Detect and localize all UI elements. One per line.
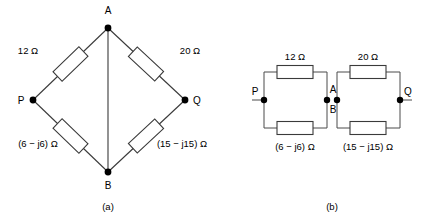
label-b-12ohm: 12 Ω	[285, 51, 305, 62]
resistor-a-20ohm	[128, 47, 163, 81]
resistor-body	[53, 119, 88, 153]
resistor-a-6-j6	[53, 119, 88, 153]
node-label-a-q: Q	[193, 95, 201, 106]
node-dot-b-a	[324, 97, 330, 103]
resistor-a-12ohm	[53, 47, 88, 81]
node-label-a-top: A	[105, 5, 112, 16]
node-label-b-p: P	[252, 86, 259, 97]
node-dot-a-top	[105, 25, 112, 32]
caption-a: (a)	[102, 201, 114, 212]
resistor-b-12ohm	[277, 66, 313, 79]
resistor-body	[128, 47, 163, 81]
diagram-b: 12 Ω (6 − j6) Ω 20 Ω (15 − j15) Ω P A B …	[252, 51, 412, 212]
resistor-b-15-j15	[350, 122, 386, 135]
node-label-a-p: P	[18, 95, 25, 106]
resistor-b-6-j6	[277, 122, 313, 135]
diagram-a-wires	[33, 28, 185, 172]
node-dot-a-bottom	[105, 169, 112, 176]
resistor-body	[53, 47, 88, 81]
node-label-b-a: A	[330, 84, 337, 95]
node-label-b-b: B	[330, 104, 337, 115]
resistor-b-20ohm	[350, 66, 386, 79]
label-b-6-j6: (6 − j6) Ω	[275, 141, 315, 152]
node-label-a-bottom: B	[105, 180, 112, 191]
node-label-b-q: Q	[404, 86, 412, 97]
node-dot-b-b	[334, 97, 340, 103]
label-b-20ohm: 20 Ω	[358, 51, 378, 62]
node-dot-b-q	[397, 97, 403, 103]
circuit-svg: 12 Ω 20 Ω (6 − j6) Ω (15 − j15) Ω A	[0, 0, 426, 220]
diagram-a: 12 Ω 20 Ω (6 − j6) Ω (15 − j15) Ω A	[18, 5, 207, 212]
label-a-20ohm: 20 Ω	[180, 45, 200, 56]
label-b-15-j15: (15 − j15) Ω	[343, 141, 393, 152]
circuit-figure: 12 Ω 20 Ω (6 − j6) Ω (15 − j15) Ω A	[0, 0, 426, 220]
label-a-6-j6: (6 − j6) Ω	[18, 138, 58, 149]
label-a-12ohm: 12 Ω	[18, 45, 38, 56]
node-dot-b-p	[261, 97, 267, 103]
node-dot-a-p	[30, 97, 37, 104]
node-dot-a-q	[182, 97, 189, 104]
caption-b: (b)	[326, 201, 338, 212]
label-a-15-j15: (15 − j15) Ω	[157, 138, 207, 149]
